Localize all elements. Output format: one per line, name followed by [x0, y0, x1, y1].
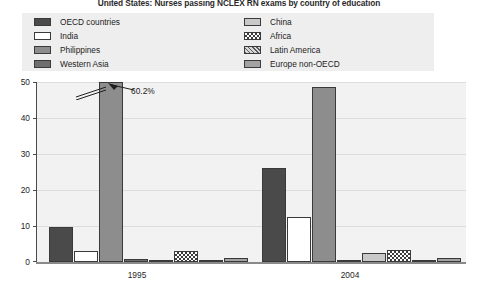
legend-label: China — [270, 17, 292, 27]
bar-2004-africa[interactable] — [387, 250, 411, 262]
x-axis-label-1995: 1995 — [107, 270, 167, 280]
bar-2004-oecd-countries[interactable] — [262, 168, 286, 262]
y-tick-label: 0 — [25, 258, 30, 266]
latin-america-swatch — [244, 46, 261, 54]
legend-item-india: India — [34, 29, 120, 43]
legend-label: Latin America — [270, 45, 320, 55]
bar-group-1995 — [49, 82, 234, 262]
india-swatch — [34, 32, 51, 40]
bar-2004-philippines[interactable] — [312, 87, 336, 262]
y-tick — [33, 190, 37, 191]
legend-label: Philippines — [60, 45, 100, 55]
x-axis-label-2004: 2004 — [320, 270, 380, 280]
y-tick-label: 10 — [21, 222, 30, 230]
legend-item-africa: Africa — [244, 29, 340, 43]
legend-item-philippines: Philippines — [34, 43, 120, 57]
legend-label: Europe non-OECD — [270, 59, 340, 69]
y-axis: 50 40 30 20 10 0 — [0, 82, 32, 264]
legend-label: India — [60, 31, 78, 41]
china-swatch — [244, 18, 261, 26]
x-axis-baseline — [36, 262, 466, 264]
y-tick — [33, 118, 37, 119]
africa-swatch — [244, 32, 261, 40]
legend-label: Western Asia — [60, 59, 109, 69]
y-tick-label: 50 — [21, 78, 30, 86]
bar-2004-india[interactable] — [287, 217, 311, 262]
legend-label: OECD countries — [60, 17, 120, 27]
y-tick — [33, 82, 37, 83]
europe-non-oecd-swatch — [244, 60, 261, 68]
legend-item-europe-non-oecd: Europe non-OECD — [244, 57, 340, 71]
chart-title: United States: Nurses passing NCLEX RN e… — [0, 0, 478, 8]
legend-label: Africa — [270, 31, 291, 41]
bar-1995-oecd-countries[interactable] — [49, 227, 73, 262]
western-asia-swatch — [34, 60, 51, 68]
philippines-swatch — [34, 46, 51, 54]
bar-1995-philippines[interactable] — [99, 82, 123, 262]
y-tick-label: 20 — [21, 186, 30, 194]
bar-1995-india[interactable] — [74, 251, 98, 262]
legend-item-western-asia: Western Asia — [34, 57, 120, 71]
plot-area — [36, 82, 466, 262]
legend-column-left: OECD countries India Philippines Western… — [34, 15, 120, 71]
philippines-1995-value-annotation: 60.2% — [131, 86, 155, 96]
legend-item-latin-america: Latin America — [244, 43, 340, 57]
y-tick-label: 30 — [21, 150, 30, 158]
legend-column-right: China Africa Latin America Europe non-OE… — [244, 15, 340, 71]
legend-item-oecd-countries: OECD countries — [34, 15, 120, 29]
bar-group-2004 — [262, 82, 447, 262]
y-tick — [33, 226, 37, 227]
y-tick-label: 40 — [21, 114, 30, 122]
bar-2004-china[interactable] — [362, 253, 386, 262]
chart-legend: OECD countries India Philippines Western… — [22, 13, 434, 71]
legend-item-china: China — [244, 15, 340, 29]
y-tick — [33, 154, 37, 155]
bar-1995-africa[interactable] — [174, 251, 198, 262]
oecd-swatch — [34, 18, 51, 26]
